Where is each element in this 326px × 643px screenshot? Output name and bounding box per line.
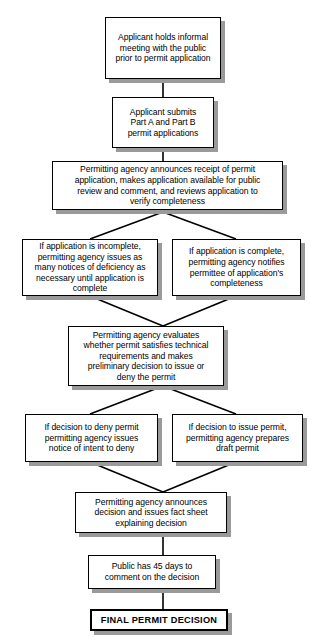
node-application-incomplete[interactable]: If application is incomplete, permitting… [22,239,158,296]
connector-n3-to-n4a [90,212,163,239]
node-label: Permitting agency evaluates whether perm… [84,330,209,383]
node-agency-announces-receipt[interactable]: Permitting agency announces receipt of p… [52,161,283,210]
connector-n3-to-n4b [163,212,236,239]
connector-n6b-to-n7 [163,462,236,492]
connector-n5-to-n6a [90,386,163,414]
connector-n4b-to-n5 [163,296,236,326]
node-application-complete[interactable]: If application is complete, permitting a… [172,239,301,296]
flowchart-diagram: Applicant holds informal meeting with th… [0,0,326,643]
node-agency-evaluates-permit[interactable]: Permitting agency evaluates whether perm… [68,326,224,386]
node-label: If decision to issue permit, permitting … [186,422,289,454]
connector-n5-to-n6b [163,386,236,414]
node-label: If application is complete, permitting a… [188,246,284,288]
node-final-permit-decision[interactable]: FINAL PERMIT DECISION [90,609,228,631]
node-public-comment-period[interactable]: Public has 45 days to comment on the dec… [88,555,216,589]
node-label: Applicant holds informal meeting with th… [115,32,210,64]
node-label: Public has 45 days to comment on the dec… [105,561,199,582]
node-agency-announces-decision[interactable]: Permitting agency announces decision and… [75,492,227,533]
node-label: FINAL PERMIT DECISION [101,615,217,626]
node-decision-issue[interactable]: If decision to issue permit, permitting … [172,414,303,462]
node-label: Applicant submits Part A and Part B perm… [128,107,199,139]
node-decision-deny[interactable]: If decision to deny permit permitting ag… [25,414,158,462]
node-informal-meeting[interactable]: Applicant holds informal meeting with th… [105,17,221,79]
node-label: Permitting agency announces receipt of p… [75,164,261,206]
connector-n6a-to-n7 [90,462,163,492]
connector-n4a-to-n5 [90,296,163,326]
node-label: If application is incomplete, permitting… [35,241,146,294]
node-applicant-submits[interactable]: Applicant submits Part A and Part B perm… [112,97,214,148]
node-label: If decision to deny permit permitting ag… [44,422,138,454]
node-label: Permitting agency announces decision and… [94,497,207,529]
